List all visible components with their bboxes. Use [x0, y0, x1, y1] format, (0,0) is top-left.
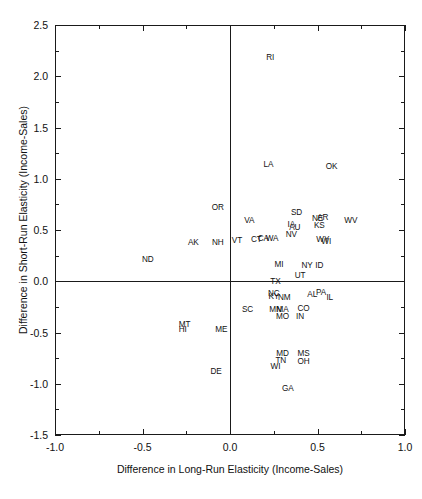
y-tick-major-right [399, 128, 405, 129]
x-tick-label: -0.5 [121, 441, 165, 453]
data-point-label: IL [326, 292, 333, 301]
y-axis-title: Difference in Short-Run Elasticity (Inco… [17, 40, 29, 400]
data-point-label: VT [232, 236, 242, 245]
y-tick-minor [55, 307, 59, 308]
data-point-label: AK [188, 238, 199, 247]
data-point-label: NV [286, 230, 297, 239]
data-point-label: WA [266, 234, 279, 243]
y-tick-minor-right [401, 409, 405, 410]
data-point-label: WI [271, 362, 281, 371]
horizontal-zero-reference-line [55, 281, 405, 282]
data-point-label: TX [270, 277, 280, 286]
data-point-label: ME [215, 325, 227, 334]
y-tick-label: 0.0 [12, 276, 48, 286]
y-tick-label: -1.0 [12, 379, 48, 389]
scatter-plot-figure: Difference in Long-Run Elasticity (Incom… [0, 0, 422, 499]
y-tick-minor [55, 256, 59, 257]
data-point-label: DE [210, 367, 221, 376]
y-tick-label: 0.5 [12, 225, 48, 235]
x-tick-major-top [405, 25, 406, 31]
y-tick-major [55, 76, 61, 77]
data-point-label: LA [264, 160, 274, 169]
y-tick-major [55, 128, 61, 129]
x-tick-label: 1.0 [383, 441, 422, 453]
y-tick-minor [55, 409, 59, 410]
data-point-label: KS [314, 220, 325, 229]
y-tick-label: 1.0 [12, 174, 48, 184]
data-point-label: RI [266, 52, 274, 61]
vertical-zero-reference-line [230, 25, 231, 435]
x-tick-major-top [143, 25, 144, 31]
data-point-label: UT [295, 271, 306, 280]
x-tick-minor [186, 431, 187, 435]
data-point-label: WV [344, 215, 357, 224]
y-tick-major [55, 230, 61, 231]
x-tick-minor-top [361, 25, 362, 29]
data-point-label: MO [276, 312, 289, 321]
data-point-label: GA [282, 383, 294, 392]
data-point-label: SD [291, 207, 302, 216]
x-tick-major [143, 429, 144, 435]
y-tick-major-right [399, 230, 405, 231]
y-tick-label: -0.5 [12, 328, 48, 338]
data-point-label: HI [179, 325, 187, 334]
x-tick-major [55, 429, 56, 435]
y-tick-minor [55, 358, 59, 359]
x-tick-major-top [55, 25, 56, 31]
y-tick-major-right [399, 384, 405, 385]
data-point-label: NH [212, 238, 224, 247]
y-tick-major [55, 179, 61, 180]
y-tick-minor-right [401, 307, 405, 308]
y-tick-minor-right [401, 153, 405, 154]
data-point-label: OH [297, 357, 309, 366]
y-tick-minor-right [401, 51, 405, 52]
data-point-label: OR [212, 203, 224, 212]
x-tick-minor [99, 431, 100, 435]
y-tick-major [55, 435, 61, 436]
y-tick-label: 2.0 [12, 71, 48, 81]
x-tick-minor [361, 431, 362, 435]
data-point-label: ND [142, 254, 154, 263]
y-tick-label: 1.5 [12, 123, 48, 133]
data-point-label: NY [301, 260, 312, 269]
x-axis-title: Difference in Long-Run Elasticity (Incom… [55, 463, 405, 475]
data-point-label: WI [321, 237, 331, 246]
x-tick-minor [274, 431, 275, 435]
data-point-label: VA [244, 215, 254, 224]
y-tick-major-right [399, 76, 405, 77]
x-tick-label: -1.0 [33, 441, 77, 453]
data-point-label: MI [275, 259, 284, 268]
data-point-label: OK [326, 162, 338, 171]
data-point-label: NM [278, 292, 291, 301]
y-tick-minor-right [401, 358, 405, 359]
x-tick-major [318, 429, 319, 435]
y-tick-minor-right [401, 102, 405, 103]
data-point-label: SC [242, 304, 253, 313]
x-tick-minor-top [274, 25, 275, 29]
y-tick-minor [55, 204, 59, 205]
y-tick-major [55, 333, 61, 334]
y-tick-minor [55, 153, 59, 154]
y-tick-minor [55, 51, 59, 52]
y-tick-minor-right [401, 204, 405, 205]
x-tick-minor-top [186, 25, 187, 29]
x-tick-label: 0.5 [296, 441, 340, 453]
y-tick-label: 2.5 [12, 20, 48, 30]
x-tick-major [405, 429, 406, 435]
y-tick-major-right [399, 179, 405, 180]
x-tick-minor-top [99, 25, 100, 29]
y-tick-minor-right [401, 256, 405, 257]
y-tick-minor [55, 102, 59, 103]
data-point-label: ID [315, 260, 323, 269]
data-point-label: PA [316, 287, 326, 296]
y-tick-major [55, 384, 61, 385]
data-point-label: IN [296, 312, 304, 321]
y-tick-major-right [399, 435, 405, 436]
y-tick-major-right [399, 333, 405, 334]
y-tick-label: -1.5 [12, 430, 48, 440]
x-tick-label: 0.0 [208, 441, 252, 453]
x-tick-major-top [318, 25, 319, 31]
